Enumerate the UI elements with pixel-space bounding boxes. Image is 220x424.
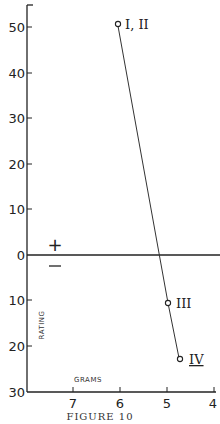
y-tick-neg-30: 30 <box>8 385 25 400</box>
y-tick-0: 0 <box>17 248 25 263</box>
data-point-III <box>165 300 170 305</box>
y-tick-10: 10 <box>8 202 25 217</box>
data-point-I-II <box>115 21 120 26</box>
y-tick-neg-10: 10 <box>8 293 25 308</box>
x-ticks: 7 6 5 4 <box>69 387 217 411</box>
chart-figure: 50 40 30 20 10 0 10 20 30 7 6 5 4 + RATI… <box>0 0 220 424</box>
y-ticks-upper: 50 40 30 20 10 0 <box>8 20 32 263</box>
point-label-I-II: I, II <box>125 17 149 32</box>
y-tick-20: 20 <box>8 157 25 172</box>
x-tick-7: 7 <box>69 396 77 411</box>
point-label-III: III <box>176 296 191 311</box>
y-tick-40: 40 <box>8 66 25 81</box>
data-point-IV <box>177 356 182 361</box>
x-axis-title: GRAMS <box>74 376 102 384</box>
y-ticks-lower: 10 20 30 <box>8 293 32 400</box>
y-tick-30: 30 <box>8 111 25 126</box>
figure-caption: FIGURE 10 <box>66 411 133 422</box>
y-tick-50: 50 <box>8 20 25 35</box>
data-line <box>118 26 179 358</box>
x-tick-5: 5 <box>163 396 171 411</box>
x-tick-4: 4 <box>209 396 217 411</box>
x-tick-6: 6 <box>116 396 124 411</box>
point-label-IV: IV <box>189 352 204 367</box>
plus-sign: + <box>47 234 62 255</box>
y-tick-neg-20: 20 <box>8 339 25 354</box>
y-axis-title: RATING <box>38 311 46 340</box>
